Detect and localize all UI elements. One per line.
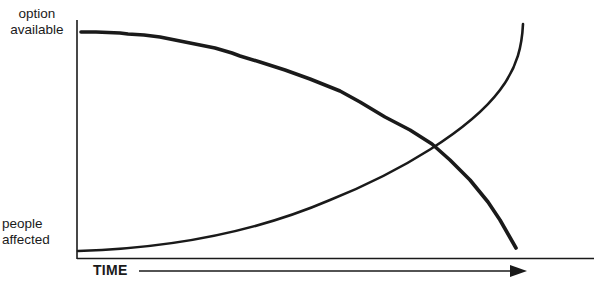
time-arrow-head-icon: [510, 265, 527, 277]
people-affected-curve: [78, 24, 523, 251]
option-available-curve: [81, 32, 516, 248]
chart-canvas: [0, 0, 596, 284]
